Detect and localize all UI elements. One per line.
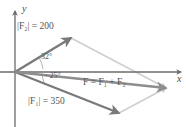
vector-diagram-svg bbox=[0, 0, 186, 127]
force-vector-figure: y x |F₂| = 200 |F₁| = 350 F = F₁ + F₂ 32… bbox=[0, 0, 186, 127]
x-axis-label: x bbox=[177, 74, 181, 84]
parallelogram-side-f1-to-tip bbox=[119, 88, 166, 113]
parallelogram-construction bbox=[71, 38, 166, 113]
resultant-label: F = F₁ + F₂ bbox=[83, 78, 126, 88]
f1-magnitude-label: |F₁| = 350 bbox=[28, 97, 65, 107]
angle-arcs bbox=[40, 59, 45, 84]
angle-label-f2: 32° bbox=[41, 53, 52, 61]
y-axis-label: y bbox=[22, 4, 26, 14]
angle-label-f1: −25° bbox=[45, 72, 61, 80]
f2-magnitude-label: |F₂| = 200 bbox=[17, 22, 54, 32]
